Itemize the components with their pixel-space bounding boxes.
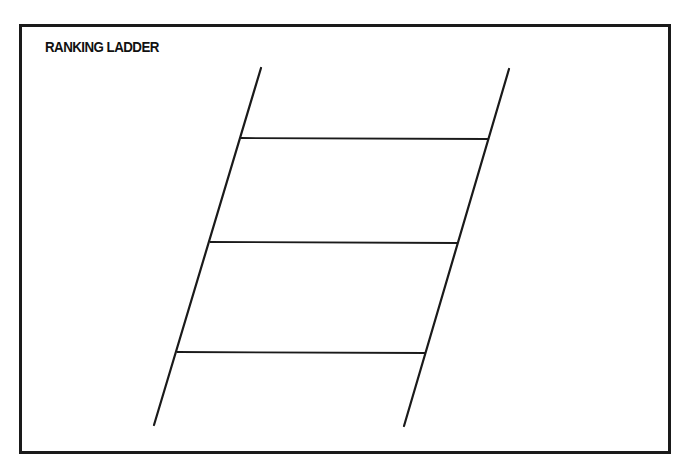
ladder-left-rail bbox=[154, 68, 261, 425]
ladder-rungs bbox=[177, 138, 488, 353]
ladder-rung-3 bbox=[177, 352, 426, 353]
ranking-ladder-diagram bbox=[0, 0, 687, 474]
ladder-right-rail bbox=[404, 69, 509, 426]
ladder-rung-1 bbox=[241, 138, 488, 139]
ladder-rung-2 bbox=[210, 242, 458, 243]
